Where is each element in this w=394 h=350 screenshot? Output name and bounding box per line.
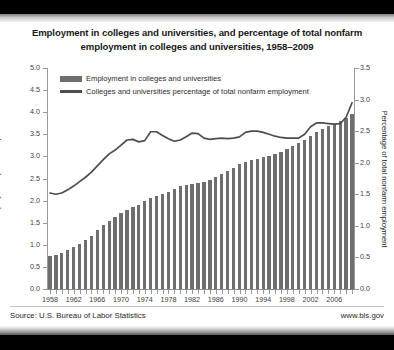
x-tick (293, 290, 294, 294)
y-axis-left-title: Employment (in millions) (0, 68, 1, 290)
x-tick (317, 290, 318, 294)
x-tick (222, 290, 223, 294)
x-tick (86, 290, 87, 294)
x-tick (234, 290, 235, 294)
chart-title-line-2: employment in colleges and universities,… (18, 40, 376, 54)
x-tick-label: 1978 (160, 296, 176, 304)
x-tick (299, 290, 300, 294)
x-tick (204, 290, 205, 294)
x-tick (334, 290, 335, 294)
x-tick (115, 290, 116, 294)
y-tick-label-right: 0.0 (360, 285, 386, 292)
x-tick (163, 290, 164, 294)
x-tick (322, 290, 323, 294)
x-tick (352, 290, 353, 294)
y-tick-right (355, 131, 359, 132)
x-tick (157, 290, 158, 294)
x-tick-label: 1970 (113, 296, 129, 304)
y-tick-right (355, 100, 359, 101)
x-tick-label: 1994 (255, 296, 271, 304)
source-note: Source: U.S. Bureau of Labor Statistics (10, 311, 146, 320)
x-tick-label: 2002 (303, 296, 319, 304)
y-tick-right (355, 68, 359, 69)
screenshot-frame: Employment in colleges and universities,… (0, 0, 394, 350)
x-tick (216, 290, 217, 294)
x-tick (174, 290, 175, 294)
x-tick (281, 290, 282, 294)
x-tick-label: 1958 (42, 296, 58, 304)
x-tick (180, 290, 181, 294)
x-tick (311, 290, 312, 294)
y-tick-right (355, 289, 359, 290)
y-tick-label-left: 3.5 (14, 130, 40, 137)
line-series (47, 68, 355, 290)
x-tick-label: 1962 (66, 296, 82, 304)
x-tick (305, 290, 306, 294)
legend-item-line: Colleges and universities percentage of … (60, 85, 309, 98)
x-tick (74, 290, 75, 294)
y-tick-label-right: 3.0 (360, 96, 386, 103)
x-tick (139, 290, 140, 294)
x-tick (97, 290, 98, 294)
x-tick (257, 290, 258, 294)
x-tick (245, 290, 246, 294)
x-tick (198, 290, 199, 294)
x-tick-label: 1966 (89, 296, 105, 304)
y-tick-label-right: 2.0 (360, 159, 386, 166)
top-gradient-strip (0, 14, 394, 22)
y-tick-label-left: 2.5 (14, 175, 40, 182)
x-tick (145, 290, 146, 294)
x-tick (210, 290, 211, 294)
x-tick (251, 290, 252, 294)
line-series-path (50, 103, 352, 195)
bottom-black-band (0, 335, 394, 350)
chart-title: Employment in colleges and universities,… (18, 26, 376, 53)
x-tick (151, 290, 152, 294)
x-tick-label: 1974 (137, 296, 153, 304)
y-tick-label-left: 5.0 (14, 64, 40, 71)
x-tick (168, 290, 169, 294)
x-tick (269, 290, 270, 294)
x-tick (275, 290, 276, 294)
x-tick (340, 290, 341, 294)
x-tick (109, 290, 110, 294)
y-tick-label-right: 0.5 (360, 253, 386, 260)
y-tick-label-right: 1.5 (360, 190, 386, 197)
y-tick-label-right: 2.5 (360, 127, 386, 134)
y-tick-label-right: 3.5 (360, 64, 386, 71)
x-tick (127, 290, 128, 294)
y-tick-right (355, 194, 359, 195)
x-tick (121, 290, 122, 294)
x-tick-label: 1986 (208, 296, 224, 304)
x-tick-label: 1998 (279, 296, 295, 304)
legend-label-line: Colleges and universities percentage of … (86, 87, 309, 96)
footer-divider (10, 306, 384, 307)
website-note[interactable]: www.bls.gov (341, 311, 384, 320)
x-tick (346, 290, 347, 294)
x-tick (192, 290, 193, 294)
y-tick-label-left: 0.5 (14, 263, 40, 270)
chart-card: Employment in colleges and universities,… (0, 22, 394, 326)
y-tick-label-right: 1.0 (360, 222, 386, 229)
x-tick (228, 290, 229, 294)
legend-item-bars: Employment in colleges and universities (60, 72, 309, 85)
y-tick-label-left: 0.0 (14, 285, 40, 292)
legend-line-swatch-icon (60, 90, 82, 93)
x-tick (328, 290, 329, 294)
y-tick-label-left: 1.5 (14, 219, 40, 226)
x-tick (263, 290, 264, 294)
x-tick (80, 290, 81, 294)
y-tick-label-left: 4.5 (14, 86, 40, 93)
x-tick (287, 290, 288, 294)
y-tick-right (355, 226, 359, 227)
y-tick-label-left: 1.0 (14, 241, 40, 248)
y-tick-right (355, 163, 359, 164)
x-tick (186, 290, 187, 294)
x-tick (240, 290, 241, 294)
y-tick-label-left: 3.0 (14, 152, 40, 159)
chart-legend: Employment in colleges and universities … (60, 72, 309, 98)
x-tick (56, 290, 57, 294)
bottom-gradient-strip (0, 326, 394, 335)
legend-label-bars: Employment in colleges and universities (86, 74, 221, 83)
legend-bar-swatch-icon (60, 76, 82, 82)
